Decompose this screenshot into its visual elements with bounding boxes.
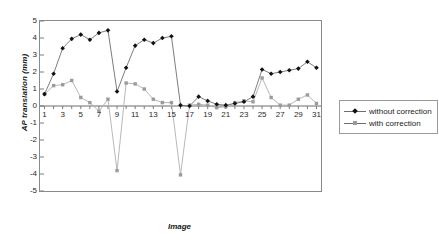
x-axis-tick-label: 15 [167, 111, 176, 119]
x-axis-tick-label: 17 [185, 111, 194, 119]
x-axis-tick-label: 7 [97, 111, 101, 119]
y-axis-tick-label: 3 [33, 51, 37, 59]
y-axis-tick-label: -5 [30, 187, 37, 195]
y-axis-tick-label: -2 [30, 136, 37, 144]
y-axis-tick-label: 0 [33, 102, 37, 110]
legend-key-square [344, 118, 366, 128]
x-axis-tick-label: 9 [115, 111, 119, 119]
chart-figure: AP translation (mm) 543210-1-2-3-4-51357… [0, 0, 439, 248]
diamond-marker-icon [352, 108, 358, 114]
legend-item[interactable]: without correction [344, 105, 432, 117]
y-axis-tick-label: -3 [30, 153, 37, 161]
x-axis-tick-label: 31 [312, 111, 321, 119]
legend-label: without correction [369, 107, 432, 116]
x-axis-tick-label: 21 [221, 111, 230, 119]
chart-legend: without correction with correction [339, 100, 438, 134]
x-axis-tick-label: 25 [258, 111, 267, 119]
y-axis-title: AP translation (mm) [20, 28, 29, 158]
legend-item[interactable]: with correction [344, 117, 432, 129]
y-axis-tick-label: 5 [33, 17, 37, 25]
square-marker-icon [353, 121, 357, 125]
x-axis-tick-label: 27 [276, 111, 285, 119]
chart-canvas [40, 21, 321, 191]
x-axis-tick-label: 11 [131, 111, 139, 119]
y-axis-tick-label: -4 [30, 170, 37, 178]
y-axis-tick-label: 1 [33, 85, 37, 93]
plot-area: 543210-1-2-3-4-5135791113151719212325272… [39, 20, 322, 192]
x-axis-tick-label: 5 [79, 111, 83, 119]
x-axis-tick-label: 29 [294, 111, 303, 119]
y-axis-tick-label: -1 [30, 119, 37, 127]
y-axis-tick-label: 4 [33, 34, 37, 42]
legend-key-diamond [344, 106, 366, 116]
x-axis-tick-label: 1 [42, 111, 46, 119]
x-axis-title: Image [36, 222, 323, 231]
x-axis-tick-label: 23 [239, 111, 248, 119]
y-axis-tick-label: 2 [33, 68, 37, 76]
x-axis-tick-label: 13 [149, 111, 158, 119]
x-axis-tick-label: 3 [60, 111, 64, 119]
x-axis-tick-label: 19 [203, 111, 212, 119]
legend-label: with correction [369, 119, 421, 128]
